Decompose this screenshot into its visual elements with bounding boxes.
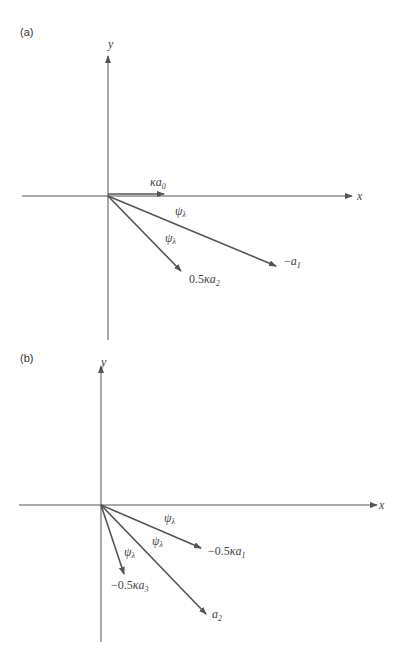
panel-a-label: (a)	[20, 26, 33, 38]
panel-a: (a) x y κa0 −a1 0.5κa2 ψλ ψλ	[20, 26, 363, 340]
angle-label-psi: ψλ	[164, 511, 175, 526]
label-half-ka2: 0.5κa2	[189, 272, 220, 288]
label-neg-a1: −a1	[284, 254, 301, 270]
phasor-diagram: (a) x y κa0 −a1 0.5κa2 ψλ ψλ (b) x y −0.…	[0, 0, 404, 664]
x-axis-label: x	[378, 498, 385, 512]
panel-b-label: (b)	[20, 352, 33, 364]
panel-b: (b) x y −0.5κa1 a2 −0.5κa3 ψλ ψλ ψλ	[19, 352, 385, 642]
vector-neg-half-ka3	[101, 505, 124, 574]
label-a2: a2	[212, 607, 222, 623]
angle-label-psi: ψλ	[175, 204, 186, 219]
label-ka0: κa0	[150, 175, 166, 191]
angle-label-psi: ψλ	[165, 231, 176, 246]
vector-neg-a1	[108, 196, 276, 266]
y-axis-label: y	[100, 355, 107, 369]
angle-label-psi: ψλ	[124, 545, 135, 560]
x-axis-label: x	[356, 189, 363, 203]
vector-a2	[101, 505, 206, 614]
angle-label-psi: ψλ	[152, 534, 163, 549]
vector-neg-half-ka1	[101, 505, 201, 548]
label-neg-half-ka1: −0.5κa1	[208, 544, 246, 560]
label-neg-half-ka3: −0.5κa3	[111, 578, 149, 594]
y-axis-label: y	[107, 37, 114, 51]
